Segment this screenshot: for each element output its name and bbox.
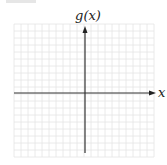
x-axis-arrow-icon [149, 91, 156, 96]
y-axis-label: g(x) [75, 8, 101, 23]
grid-lines [14, 24, 154, 157]
coordinate-plane: g(x) x [0, 0, 167, 165]
y-axis-arrow-icon [83, 26, 88, 33]
x-axis-label: x [158, 85, 166, 100]
